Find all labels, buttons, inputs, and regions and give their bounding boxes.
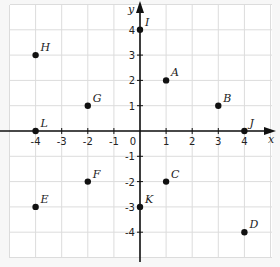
x-tick-label: -1 — [109, 136, 119, 147]
x-axis-label: x — [268, 133, 275, 146]
point-label: G — [93, 92, 102, 105]
y-tick-label: -3 — [125, 202, 135, 213]
y-tick-label: -1 — [125, 151, 135, 162]
point-label: H — [40, 41, 51, 54]
x-tick-label: 1 — [163, 136, 169, 147]
point-label: F — [92, 168, 101, 181]
point-marker — [85, 103, 91, 109]
point-marker — [241, 229, 247, 235]
point-label: L — [40, 117, 48, 130]
x-tick-label: 3 — [215, 136, 221, 147]
point-label: J — [247, 117, 254, 130]
x-tick-label: -3 — [57, 136, 67, 147]
point-marker — [85, 178, 91, 184]
point-marker — [32, 128, 38, 134]
x-tick-label: -2 — [83, 136, 93, 147]
y-tick-label: -4 — [125, 227, 135, 238]
y-tick-label: 4 — [129, 25, 135, 36]
point-marker — [163, 178, 169, 184]
y-tick-label: 1 — [129, 101, 135, 112]
point-marker — [241, 128, 247, 134]
point-marker — [32, 52, 38, 58]
point-label: B — [222, 92, 231, 105]
y-tick-label: 3 — [129, 50, 135, 61]
point-label: E — [40, 193, 49, 206]
point-marker — [163, 77, 169, 83]
point-label: D — [248, 218, 258, 231]
y-tick-label: 2 — [129, 75, 135, 86]
point-marker — [32, 204, 38, 210]
x-tick-label: 4 — [241, 136, 247, 147]
coordinate-plane: xy -4-3-2-1012344321-1-2-3-4 ABCDEFGHIJK… — [0, 0, 280, 267]
point-label: A — [170, 66, 179, 79]
x-tick-label: -4 — [31, 136, 41, 147]
y-axis-label: y — [127, 3, 135, 16]
point-label: C — [171, 168, 180, 181]
point-label: K — [144, 193, 154, 206]
point-marker — [137, 204, 143, 210]
point-marker — [215, 103, 221, 109]
y-tick-label: -2 — [125, 177, 135, 188]
x-tick-label: 2 — [189, 136, 195, 147]
point-marker — [137, 27, 143, 33]
x-tick-label: 0 — [130, 136, 136, 147]
point-label: I — [144, 16, 150, 29]
